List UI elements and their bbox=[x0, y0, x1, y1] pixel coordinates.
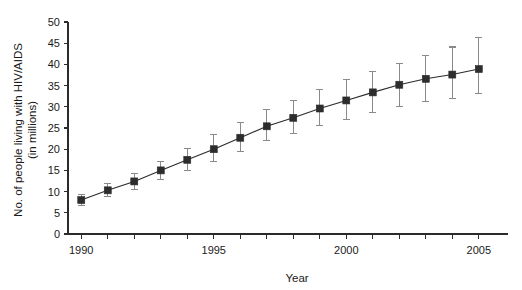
data-point-marker bbox=[263, 123, 270, 130]
x-tick-label: 1995 bbox=[202, 244, 226, 256]
hiv-aids-line-chart: 05101520253035404550 1990199520002005 Ye… bbox=[0, 0, 522, 290]
y-tick-label: 15 bbox=[48, 164, 60, 176]
y-tick-label: 45 bbox=[48, 37, 60, 49]
y-tick-label: 40 bbox=[48, 58, 60, 70]
data-point-marker bbox=[422, 75, 429, 82]
y-tick-label: 10 bbox=[48, 186, 60, 198]
x-tick-label: 1990 bbox=[69, 244, 93, 256]
data-point-marker bbox=[396, 81, 403, 88]
chart-figure: 05101520253035404550 1990199520002005 Ye… bbox=[0, 0, 522, 290]
data-point-marker bbox=[369, 89, 376, 96]
data-point-marker bbox=[449, 71, 456, 78]
data-point-marker bbox=[237, 134, 244, 141]
y-tick-label: 50 bbox=[48, 16, 60, 28]
x-axis-title: Year bbox=[285, 272, 308, 284]
data-point-marker bbox=[343, 97, 350, 104]
y-tick-label: 20 bbox=[48, 143, 60, 155]
data-point-marker bbox=[290, 114, 297, 121]
data-point-marker bbox=[157, 167, 164, 174]
y-tick-label: 5 bbox=[54, 207, 60, 219]
data-point-marker bbox=[104, 187, 111, 194]
data-point-marker bbox=[475, 66, 482, 73]
x-tick-label: 2005 bbox=[467, 244, 491, 256]
y-axis-title-line2: (in millions) bbox=[26, 101, 38, 159]
y-tick-label: 35 bbox=[48, 80, 60, 92]
y-tick-label: 0 bbox=[54, 228, 60, 240]
data-point-marker bbox=[78, 197, 85, 204]
y-axis-title-line1: No. of people living with HIV/AIDS bbox=[12, 43, 24, 217]
data-point-marker bbox=[316, 105, 323, 112]
data-point-marker bbox=[131, 178, 138, 185]
y-tick-label: 30 bbox=[48, 101, 60, 113]
data-point-marker bbox=[184, 156, 191, 163]
data-point-marker bbox=[210, 146, 217, 153]
y-tick-label: 25 bbox=[48, 122, 60, 134]
x-tick-label: 2000 bbox=[334, 244, 358, 256]
